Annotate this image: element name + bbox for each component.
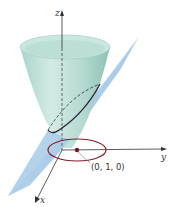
cone-inner xyxy=(25,40,105,58)
point-marker xyxy=(75,148,79,152)
z-axis-label: z xyxy=(54,8,60,18)
z-axis-arrow-icon xyxy=(60,10,64,16)
diagram-canvas: z y x (0, 1, 0) xyxy=(0,0,172,207)
plane-lower xyxy=(8,130,70,196)
point-label: (0, 1, 0) xyxy=(91,162,125,172)
x-axis-label: x xyxy=(40,195,45,205)
y-axis-label: y xyxy=(160,152,167,162)
y-axis-arrow-icon xyxy=(161,147,167,151)
